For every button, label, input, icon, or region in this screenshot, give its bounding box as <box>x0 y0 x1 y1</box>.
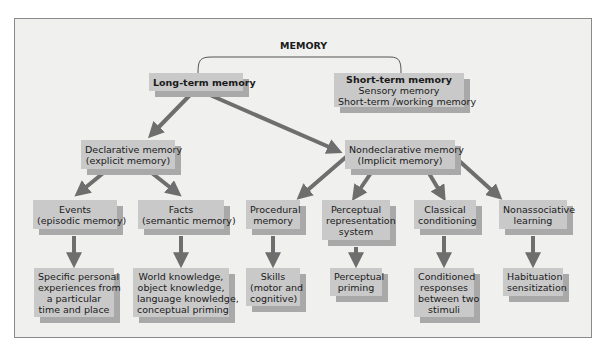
node-classical-description: Conditioned responses between two stimul… <box>414 268 474 317</box>
node-long-term-memory: Long-term memory <box>149 73 243 91</box>
node-procedural-memory: Procedural memory <box>246 200 300 229</box>
memory-title: MEMORY <box>280 40 327 51</box>
arrow-nd-procedural <box>302 157 346 195</box>
node-short-term-memory: Short-term memory Sensory memory Short-t… <box>334 73 464 107</box>
node-perceptual-description: Perceptual priming <box>330 268 382 296</box>
arrow-nd-nonassociative <box>456 158 497 195</box>
arrow-lt-nondeclarative <box>210 95 336 150</box>
node-facts: Facts (semantic memory) <box>138 200 224 229</box>
node-events: Events (episodic memory) <box>33 200 117 229</box>
node-nonassociative-description: Habituation sensitization <box>503 268 563 296</box>
node-facts-description: World knowledge, object knowledge, langu… <box>133 268 229 317</box>
node-perceptual-representation-system: Perceptual representation system <box>322 200 390 240</box>
node-classical-conditioning: Classical conditioning <box>414 200 476 229</box>
node-declarative-memory: Declarative memory (explicit memory) <box>81 140 175 169</box>
node-procedural-description: Skills (motor and cognitive) <box>246 268 300 306</box>
node-nonassociative-learning: Nonassociative learning <box>499 200 567 229</box>
node-nondeclarative-memory: Nondeclarative memory (Implicit memory) <box>345 140 455 169</box>
node-events-description: Specific personal experiences from a par… <box>34 268 114 317</box>
memory-bracket <box>198 57 401 73</box>
arrow-lt-declarative <box>153 95 190 133</box>
